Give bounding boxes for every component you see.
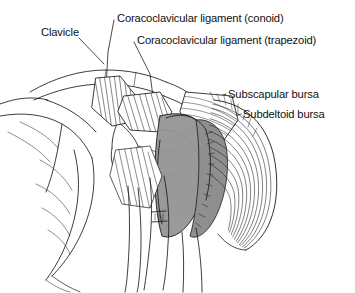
label-coracoclavicular-ligament-trapezoid: Coracoclavicular ligament (trapezoid) xyxy=(137,34,316,46)
humerus-shaft xyxy=(182,228,202,292)
anatomy-figure: Clavicle Coracoclavicular ligament (cono… xyxy=(0,0,355,293)
leader-line-clavicle xyxy=(79,38,104,64)
label-coracoclavicular-ligament-conoid: Coracoclavicular ligament (conoid) xyxy=(117,12,284,24)
label-clavicle: Clavicle xyxy=(41,26,79,38)
label-subscapular-bursa: Subscapular bursa xyxy=(228,88,319,100)
arm-outline-left xyxy=(46,276,80,292)
thorax-outline xyxy=(0,98,96,280)
pectoralis-minor xyxy=(110,146,162,210)
label-subdeltoid-bursa: Subdeltoid bursa xyxy=(243,108,325,120)
